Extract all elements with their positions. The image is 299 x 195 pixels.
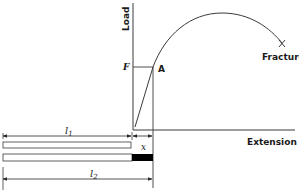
original-specimen-bar [3, 142, 131, 148]
force-label: F [122, 62, 130, 72]
fracture-label: Fracture [262, 52, 299, 62]
load-extension-diagram: Load Extension F A Fracture l1 x l2 [0, 0, 299, 195]
y-axis-label: Load [121, 7, 131, 31]
fracture-marker-icon [279, 40, 285, 47]
extension-length-label: x [141, 142, 146, 152]
x-axis-label: Extension [247, 137, 297, 147]
extension-segment [132, 154, 153, 161]
extended-specimen-bar [3, 154, 132, 161]
yield-point-label: A [158, 64, 165, 74]
